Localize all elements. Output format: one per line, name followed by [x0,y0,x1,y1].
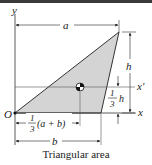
x-axis-label: x [137,106,143,118]
triangular-area-diagram: a h 1 3 h y x x' O 1 3 (a + b) b [0,0,152,165]
third-h-den: 3 [109,99,115,109]
third-ab-expr: (a + b) [37,118,66,130]
dim-a-label: a [63,19,69,31]
third-ab-num: 1 [30,113,35,123]
centroid-icon [76,83,84,91]
dim-b-label: b [52,135,58,147]
origin-label: O [4,108,12,120]
y-axis-label: y [11,4,17,16]
third-h-var: h [119,93,124,104]
x-prime-axis-label: x' [136,80,145,92]
third-h-num: 1 [110,88,115,98]
figure-caption: Triangular area [0,148,152,160]
third-ab-den: 3 [29,124,35,134]
triangle-shape [15,32,119,113]
origin-point [13,111,16,114]
dim-h-label: h [126,60,132,72]
